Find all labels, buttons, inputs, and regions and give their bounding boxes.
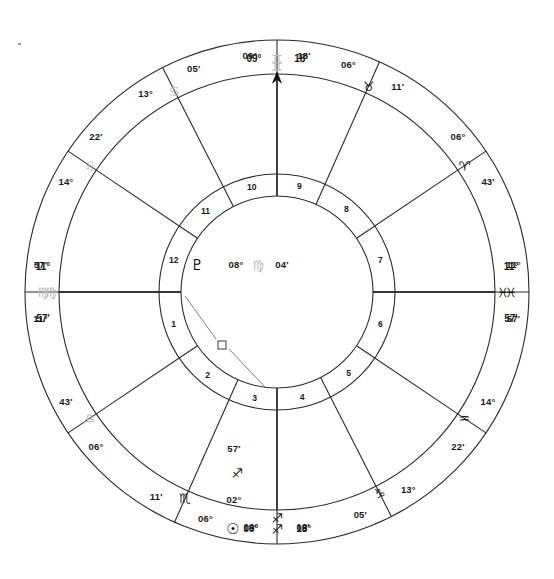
descendant-minute: 57' <box>504 313 518 324</box>
cusp-degree-capricorn: 13° <box>401 484 416 495</box>
cusp-degree-taurus: 06° <box>341 59 356 70</box>
zodiac-glyph-cancer: ♋ <box>169 84 181 99</box>
cusp-degree-aries: 06° <box>450 131 465 142</box>
house-cusp-line-9 <box>316 93 366 204</box>
zodiac-glyph-aquarius: ♒ <box>459 411 471 426</box>
pluto-sign-glyph: ♍ <box>252 258 264 273</box>
zodiac-glyph-taurus: ♉ <box>363 79 375 94</box>
pluto-degree: 08° <box>229 259 244 270</box>
angle-axis-lines <box>59 72 495 510</box>
astrology-chart-wheel: 11°♍57'06°♎43'06°♏11'09°♐18'13°♑05'14°♒2… <box>0 0 554 579</box>
cusp-degree-leo: 14° <box>58 176 73 187</box>
image-speck <box>18 43 21 45</box>
imum-coeli-minute: 18' <box>296 523 310 534</box>
house-number-11: 11 <box>201 206 210 216</box>
zodiac-glyph-capricorn: ♑ <box>374 486 386 501</box>
house-cusp-line-12 <box>96 170 197 238</box>
midheaven-minute: 18' <box>294 53 308 64</box>
cusp-degree-aquarius: 14° <box>481 396 496 407</box>
descendant-degree: 11° <box>504 261 519 272</box>
aspect-connector-lines <box>185 296 265 387</box>
zodiac-glyph-scorpio: ♏ <box>179 491 191 506</box>
square-aspect-icon <box>218 341 226 349</box>
aspect-line-sun <box>229 349 265 387</box>
cusp-minute-capricorn: 05' <box>354 509 367 520</box>
imum-coeli-degree: 09° <box>243 523 258 534</box>
aspect-glyph-layer <box>218 341 226 349</box>
descendant-sign-glyph: ♓ <box>505 285 517 300</box>
sun-sign-glyph: ♐ <box>231 466 243 481</box>
midheaven-degree: 09° <box>246 53 261 64</box>
cusp-minute-scorpio: 11' <box>150 491 163 502</box>
cusp-degree-libra: 06° <box>89 441 104 452</box>
house-cusp-line-5 <box>321 378 376 487</box>
house-number-5: 5 <box>346 368 351 378</box>
house-number-6: 6 <box>378 319 383 329</box>
cusp-minute-cancer: 05' <box>187 63 200 74</box>
pluto-glyph: ♇ <box>190 256 203 274</box>
house-number-9: 9 <box>297 181 302 191</box>
house-number-7: 7 <box>378 255 383 265</box>
sun-degree: 02° <box>227 494 242 505</box>
cusp-minute-taurus: 11' <box>391 81 404 92</box>
house-cusp-line-8 <box>357 170 458 238</box>
house-cusp-line-2 <box>96 346 197 414</box>
zodiac-glyph-libra: ♎ <box>84 411 96 426</box>
cusp-minute-aquarius: 22' <box>451 441 464 452</box>
house-number-3: 3 <box>252 393 257 403</box>
cusp-minute-leo: 22' <box>89 131 102 142</box>
house-ring-inner-circle <box>181 196 373 388</box>
house-cusp-line-6 <box>357 346 458 414</box>
house-number-2: 2 <box>205 370 210 380</box>
house-number-4: 4 <box>300 392 305 402</box>
house-ring-outer-circle <box>159 174 395 410</box>
ascendant-minute: 57' <box>36 313 50 324</box>
sun-glyph: ☉ <box>226 520 239 538</box>
cusp-degree-scorpio: 06° <box>198 513 213 524</box>
pluto-minute: 04' <box>275 259 288 270</box>
ascendant-sign-glyph: ♍ <box>37 285 49 300</box>
house-number-1: 1 <box>171 319 176 329</box>
house-number-labels: 123456789101112 <box>169 181 383 402</box>
sun-minute: 57' <box>227 443 240 454</box>
house-number-8: 8 <box>344 204 349 214</box>
imum-coeli-sign-glyph: ♐ <box>271 522 283 537</box>
house-cusp-line-11 <box>178 98 233 207</box>
zodiac-glyph-leo: ♌ <box>84 159 96 174</box>
cusp-minute-libra: 43' <box>59 396 72 407</box>
chart-wheel-svg: 11°♍57'06°♎43'06°♏11'09°♐18'13°♑05'14°♒2… <box>0 0 554 579</box>
cusp-degree-cancer: 13° <box>138 88 153 99</box>
ascendant-degree: 11° <box>36 261 51 272</box>
cusp-minute-aries: 43' <box>481 176 494 187</box>
house-number-12: 12 <box>169 255 179 265</box>
midheaven-sign-glyph: ♊ <box>271 52 283 67</box>
planet-glyph-layer: ♇08°♍04'57'♐02°☉ <box>190 256 288 538</box>
house-number-10: 10 <box>247 182 257 192</box>
zodiac-glyph-aries: ♈ <box>459 159 471 174</box>
